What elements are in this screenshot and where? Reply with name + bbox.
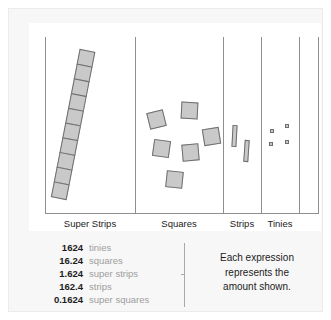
shape-square bbox=[181, 102, 199, 120]
expression-number: 162.4 bbox=[29, 280, 83, 293]
expression-row: 0.1624super squares bbox=[29, 293, 173, 306]
super-strip-segment bbox=[51, 181, 70, 200]
caption-line-1: Each expression bbox=[197, 251, 317, 266]
column-labels-row: Super Strips Squares Strips Tinies bbox=[29, 213, 321, 237]
column-label-tinies: Tinies bbox=[261, 216, 299, 232]
shape-square bbox=[152, 139, 171, 158]
brace-point bbox=[181, 274, 185, 275]
figure-panel: Super Strips Squares Strips Tinies 1624t… bbox=[8, 8, 323, 312]
expression-unit: tinies bbox=[89, 241, 111, 254]
expression-number: 0.1624 bbox=[29, 293, 83, 306]
shape-square bbox=[181, 143, 199, 161]
shape-square bbox=[165, 170, 184, 189]
expression-row: 16.24squares bbox=[29, 254, 173, 267]
shape-tiny bbox=[270, 129, 274, 133]
shape-tiny bbox=[285, 124, 289, 128]
shape-square bbox=[202, 127, 221, 146]
expression-unit: super squares bbox=[89, 293, 149, 306]
column-divider bbox=[261, 37, 262, 213]
column-label-strips: Strips bbox=[223, 216, 261, 232]
expression-number: 1.624 bbox=[29, 267, 83, 280]
expression-number: 16.24 bbox=[29, 254, 83, 267]
legend-caption: Each expression represents the amount sh… bbox=[197, 251, 317, 295]
expression-unit: strips bbox=[89, 280, 112, 293]
chart-plot: Super Strips Squares Strips Tinies bbox=[29, 23, 321, 231]
expression-unit: super strips bbox=[89, 267, 138, 280]
column-divider bbox=[45, 37, 46, 213]
shape-strip bbox=[243, 140, 250, 162]
expression-number: 1624 bbox=[29, 241, 83, 254]
column-divider bbox=[318, 37, 319, 213]
caption-line-2: represents the bbox=[197, 266, 317, 281]
brace-icon bbox=[181, 243, 187, 307]
figure-root: Super Strips Squares Strips Tinies 1624t… bbox=[0, 0, 331, 320]
shape-strip bbox=[231, 125, 237, 147]
expression-row: 1.624super strips bbox=[29, 267, 173, 280]
expression-row: 162.4strips bbox=[29, 280, 173, 293]
shape-square bbox=[146, 109, 167, 130]
column-divider bbox=[299, 37, 300, 213]
shape-super-strip bbox=[51, 49, 96, 201]
caption-line-3: amount shown. bbox=[197, 280, 317, 295]
column-label-super-strips: Super Strips bbox=[45, 216, 135, 232]
legend-area: 1624tinies 16.24squares 1.624super strip… bbox=[29, 241, 321, 311]
shape-tiny bbox=[285, 140, 289, 144]
column-divider bbox=[223, 37, 224, 213]
shape-tiny bbox=[269, 142, 273, 146]
expression-unit: squares bbox=[89, 254, 123, 267]
column-label-squares: Squares bbox=[135, 216, 223, 232]
expression-row: 1624tinies bbox=[29, 241, 173, 254]
expression-list: 1624tinies 16.24squares 1.624super strip… bbox=[29, 241, 173, 306]
chart-area: Super Strips Squares Strips Tinies bbox=[29, 23, 321, 231]
brace-stem bbox=[184, 243, 185, 307]
column-divider bbox=[135, 37, 136, 213]
